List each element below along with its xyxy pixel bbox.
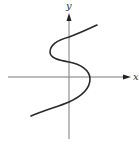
graph-figure: x y xyxy=(0,0,139,146)
graph-canvas: x y xyxy=(0,0,139,146)
y-axis-arrow-icon xyxy=(67,13,72,21)
x-axis: x xyxy=(8,71,139,82)
y-axis: y xyxy=(65,0,72,139)
s-curve xyxy=(31,25,97,116)
x-axis-label: x xyxy=(133,71,139,82)
y-axis-label: y xyxy=(65,0,72,11)
x-axis-arrow-icon xyxy=(123,75,131,80)
